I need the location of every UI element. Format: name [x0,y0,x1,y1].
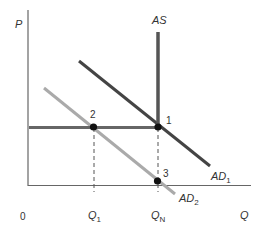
point-2-label: 2 [90,110,96,120]
qn-tick-label: QN [151,210,165,224]
ad1-label: AD1 [211,171,231,185]
x-axis-label: Q [240,210,249,221]
q1-tick-label: Q1 [88,210,101,224]
point-3 [154,177,161,184]
point-3-label: 3 [163,169,169,179]
ad-as-diagram: P AS 2 1 3 AD1 AD2 0 Q1 QN Q [0,0,266,235]
point-1 [154,123,161,130]
point-1-label: 1 [166,116,172,126]
ad1-curve [79,61,210,166]
point-2 [90,123,97,130]
y-axis-label: P [15,19,22,30]
ad2-label: AD2 [179,193,199,207]
ad2-curve [44,88,175,194]
as-label: AS [152,15,167,26]
origin-label: 0 [20,212,26,222]
diagram-canvas [0,0,266,235]
